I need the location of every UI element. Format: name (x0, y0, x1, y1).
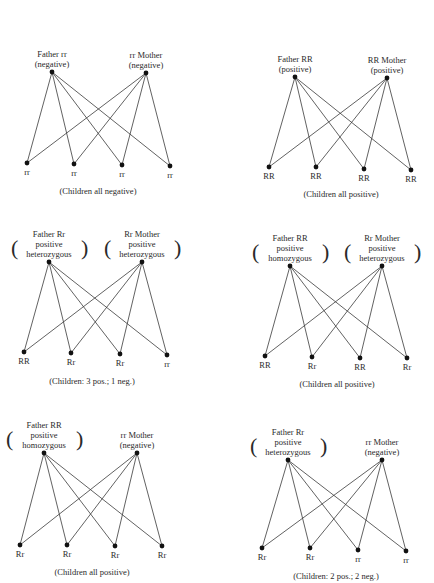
mother-to-child-2-line (316, 78, 387, 167)
mother-open-paren: ( (104, 237, 111, 259)
father-close-paren: ) (320, 435, 327, 457)
mother-to-child-4-line (142, 262, 167, 355)
mother-to-child-2-line (74, 73, 146, 164)
mother-open-paren: ( (344, 241, 351, 263)
father-title: Father RR (250, 233, 330, 243)
father-to-child-1-line (27, 72, 52, 163)
child-node-1 (267, 165, 272, 170)
father-to-child-1-line (265, 266, 290, 356)
father-to-child-1-line (24, 262, 49, 352)
child-node-2 (308, 546, 313, 551)
mother-phenotype: positive (342, 243, 422, 253)
father-phenotype: (negative) (12, 59, 92, 69)
cross-panel-1 (25, 70, 173, 169)
mother-to-child-1-line (24, 262, 142, 352)
mother-node (385, 76, 390, 81)
father-node (47, 260, 52, 265)
mother-to-child-3-line (364, 78, 387, 169)
father-title: Father rr (12, 49, 92, 59)
child-genotype-4: Rr (158, 550, 167, 560)
mother-phenotype: (positive) (347, 65, 427, 75)
mother-phenotype: heterozygous (102, 249, 182, 259)
child-genotype-1: Rr (258, 552, 267, 562)
mother-label: RR Mother(positive) (347, 55, 427, 75)
father-node (286, 458, 291, 463)
child-genotype-3: rr (355, 554, 361, 564)
child-node-3 (358, 356, 363, 361)
child-node-2 (310, 355, 315, 360)
child-node-1 (260, 546, 265, 551)
child-node-4 (168, 164, 173, 169)
mother-label: rr Mother(negative) (106, 50, 186, 70)
child-genotype-2: rr (71, 168, 77, 178)
father-node (50, 70, 55, 75)
father-close-paren: ) (76, 428, 83, 450)
father-to-child-2-line (288, 460, 310, 548)
mother-node (140, 260, 145, 265)
child-node-4 (160, 544, 165, 549)
mother-title: rr Mother (97, 430, 177, 440)
father-node (42, 451, 47, 456)
father-phenotype: heterozygous (9, 249, 89, 259)
mother-close-paren: ) (174, 237, 181, 259)
father-to-child-2-line (52, 72, 74, 164)
mother-to-child-1-line (27, 73, 146, 163)
mother-label: Rr Motherpositiveheterozygous (342, 233, 422, 263)
mother-to-child-4-line (146, 73, 170, 166)
child-genotype-2: Rr (67, 357, 76, 367)
child-node-3 (362, 167, 367, 172)
child-node-4 (404, 549, 409, 554)
father-phenotype: positive (250, 243, 330, 253)
mother-label: rr Mother(negative) (97, 430, 177, 450)
mother-to-child-4-line (382, 266, 407, 358)
father-to-child-2-line (290, 266, 312, 357)
father-label: Father RRpositivehomozygous (250, 233, 330, 263)
mother-title: rr Mother (342, 437, 422, 447)
father-to-child-1-line (262, 460, 288, 548)
mother-node (380, 264, 385, 269)
mother-node (144, 71, 149, 76)
father-to-child-4-line (288, 460, 406, 551)
father-label: Father rr(negative) (12, 49, 92, 69)
child-genotype-1: Rr (16, 549, 25, 559)
father-phenotype: positive (248, 437, 328, 447)
child-node-4 (409, 168, 414, 173)
father-label: Father RR(positive) (255, 54, 335, 74)
cross-panel-6 (260, 458, 409, 554)
father-to-child-2-line (44, 453, 67, 545)
father-to-child-3-line (52, 72, 122, 165)
mother-to-child-1-line (20, 453, 137, 545)
father-open-paren: ( (250, 435, 257, 457)
father-title: Father Rr (248, 427, 328, 437)
father-title: Father RR (255, 54, 335, 64)
mother-to-child-1-line (262, 460, 382, 548)
child-node-1 (263, 354, 268, 359)
father-node (288, 264, 293, 269)
panel-caption: (Children all positive) (299, 379, 374, 389)
child-genotype-2: Rr (306, 552, 315, 562)
child-node-1 (22, 350, 27, 355)
child-node-2 (314, 165, 319, 170)
father-phenotype: (positive) (255, 64, 335, 74)
panel-caption: (Children all positive) (303, 189, 378, 199)
child-genotype-2: Rr (308, 361, 317, 371)
father-open-paren: ( (11, 237, 18, 259)
child-genotype-4: rr (403, 555, 409, 565)
child-node-1 (18, 543, 23, 548)
inheritance-diagram (0, 0, 434, 583)
mother-phenotype: positive (102, 239, 182, 249)
cross-panel-5 (18, 451, 165, 549)
mother-title: rr Mother (106, 50, 186, 60)
child-node-3 (120, 163, 125, 168)
father-to-child-3-line (288, 460, 358, 550)
father-to-child-4-line (295, 77, 411, 170)
father-phenotype: positive (9, 239, 89, 249)
father-close-paren: ) (81, 237, 88, 259)
panel-caption: (Children: 2 pos.; 2 neg.) (293, 571, 378, 581)
panel-caption: (Children: 3 pos.; 1 neg.) (49, 376, 134, 386)
mother-node (135, 451, 140, 456)
mother-label: Rr Motherpositiveheterozygous (102, 229, 182, 259)
father-close-paren: ) (322, 241, 329, 263)
child-genotype-1: RR (18, 356, 29, 366)
child-node-2 (72, 162, 77, 167)
